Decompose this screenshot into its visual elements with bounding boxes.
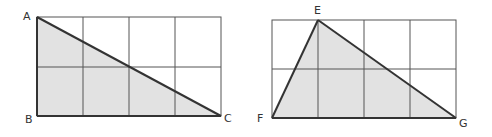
right-figure: E F G — [257, 4, 468, 130]
label-e: E — [314, 4, 321, 17]
label-f: F — [257, 112, 263, 125]
left-figure: A B C — [23, 10, 232, 126]
label-b: B — [25, 113, 33, 126]
label-c: C — [224, 112, 232, 125]
diagram-canvas: A B C E F G — [0, 0, 492, 137]
label-a: A — [23, 10, 31, 23]
label-g: G — [459, 117, 468, 130]
